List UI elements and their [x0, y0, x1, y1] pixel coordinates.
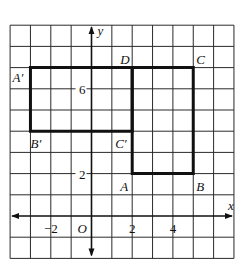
x-tick-label: −2	[44, 221, 58, 236]
point-label: C′	[115, 136, 127, 151]
point-label: A′	[11, 70, 23, 85]
x-tick-label: 4	[170, 221, 177, 236]
x-axis-label: x	[227, 198, 234, 213]
y-tick-label: 6	[79, 82, 86, 97]
point-label: B	[196, 179, 204, 194]
origin-label: O	[78, 221, 88, 236]
point-label: A	[119, 179, 128, 194]
x-tick-label: 2	[129, 221, 136, 236]
y-axis-label: y	[96, 23, 104, 38]
point-label: D	[119, 52, 130, 67]
tick-labels: −22426	[44, 81, 177, 236]
point-label: B′	[30, 136, 41, 151]
rectangle-ABCD	[132, 68, 193, 174]
point-label: C	[196, 52, 205, 67]
rectangle-A'B'C'D	[30, 68, 132, 132]
y-tick-label: 2	[79, 167, 86, 182]
coordinate-grid-diagram: xyO −22426 ABCDA′B′C′	[0, 0, 249, 264]
